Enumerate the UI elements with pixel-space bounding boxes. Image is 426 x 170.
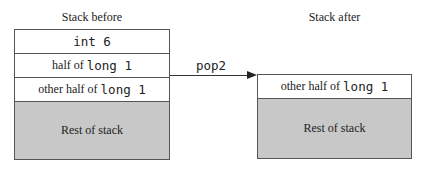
row-mono-value: long 1 [101,82,146,97]
stack-before-title: Stack before [14,10,170,25]
row-prefix: half of [52,58,87,73]
stack-before-row-other-half-long: other half of long 1 [15,78,169,102]
row-mono-value: long 1 [343,79,388,94]
row-prefix: other half of [38,82,100,97]
stack-before-row-int: int 6 [15,30,169,54]
row-mono-value: long 1 [87,58,132,73]
rest-label: Rest of stack [61,123,123,138]
stack-after-row-other-half-long: other half of long 1 [258,75,411,99]
stack-before: int 6 half of long 1 other half of long … [14,29,170,160]
arrow-head-icon [247,71,257,79]
operation-label: pop2 [196,58,226,73]
stack-after: other half of long 1 Rest of stack [257,74,412,159]
row-prefix: other half of [281,79,343,94]
stack-after-title: Stack after [257,10,412,25]
stack-before-row-half-long: half of long 1 [15,54,169,78]
rest-label: Rest of stack [304,121,366,136]
stack-after-rest: Rest of stack [258,99,411,158]
stack-before-rest: Rest of stack [15,102,169,159]
row-mono-value: int 6 [73,34,111,49]
operation-arrow-line [170,75,248,76]
